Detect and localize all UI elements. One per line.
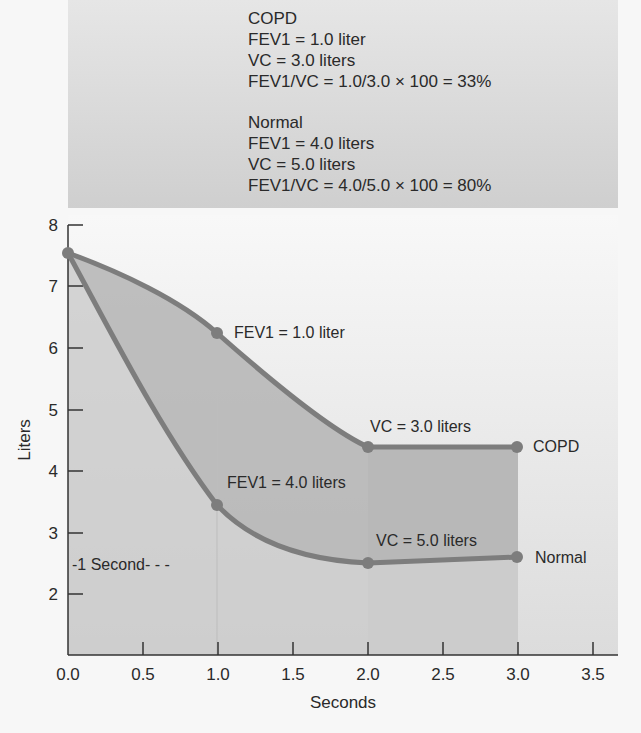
- start-point: [62, 247, 74, 259]
- svg-text:0.0: 0.0: [56, 665, 80, 684]
- svg-text:1.0: 1.0: [206, 665, 230, 684]
- svg-text:3: 3: [49, 524, 58, 543]
- svg-text:7: 7: [49, 277, 58, 296]
- x-tick-labels: 0.0 0.5 1.0 1.5 2.0 2.5 3.0 3.5: [56, 665, 605, 684]
- copd-vc-start-point: [362, 441, 374, 453]
- svg-text:3.5: 3.5: [581, 665, 605, 684]
- copd-vc-annotation: VC = 3.0 liters: [370, 418, 471, 435]
- normal-curve-label: Normal: [535, 549, 587, 566]
- svg-text:6: 6: [49, 339, 58, 358]
- one-second-marker: -1 Second- - -: [72, 556, 170, 573]
- svg-text:0.5: 0.5: [131, 665, 155, 684]
- spirometry-chart: 2 3 4 5 6 7 8 0.0 0.5 1.0 1.5 2.0 2.5 3.…: [0, 0, 641, 733]
- y-tick-labels: 2 3 4 5 6 7 8: [49, 216, 58, 604]
- y-axis-label: Liters: [15, 419, 34, 461]
- copd-fev1-point: [211, 327, 223, 339]
- svg-text:2: 2: [49, 585, 58, 604]
- svg-text:1.5: 1.5: [281, 665, 305, 684]
- copd-end-point: [511, 441, 523, 453]
- svg-text:2.5: 2.5: [431, 665, 455, 684]
- copd-curve-label: COPD: [533, 438, 579, 455]
- normal-fev1-point: [211, 499, 223, 511]
- x-axis-label: Seconds: [310, 693, 376, 712]
- normal-vc-start-point: [362, 557, 374, 569]
- svg-text:4: 4: [49, 462, 58, 481]
- svg-text:3.0: 3.0: [506, 665, 530, 684]
- normal-end-point: [511, 551, 523, 563]
- svg-text:8: 8: [49, 216, 58, 235]
- svg-text:2.0: 2.0: [356, 665, 380, 684]
- normal-fev1-annotation: FEV1 = 4.0 liters: [227, 474, 346, 491]
- copd-fev1-annotation: FEV1 = 1.0 liter: [234, 324, 345, 341]
- svg-text:5: 5: [49, 401, 58, 420]
- normal-vc-annotation: VC = 5.0 liters: [376, 532, 477, 549]
